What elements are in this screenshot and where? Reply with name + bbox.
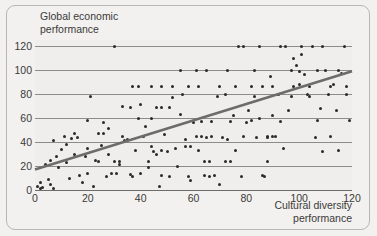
trendline-svg bbox=[35, 40, 352, 190]
y-tick-label: 100 bbox=[2, 65, 32, 76]
y-axis-title: Global economic performance bbox=[40, 10, 118, 36]
x-tick-label: 40 bbox=[121, 193, 161, 204]
y-tick-label: 40 bbox=[2, 137, 32, 148]
y-tick-label: 60 bbox=[2, 113, 32, 124]
x-tick-label: 80 bbox=[226, 193, 266, 204]
y-tick-label: 80 bbox=[2, 89, 32, 100]
chart-figure: 020406080100120 020406080100120 Global e… bbox=[0, 0, 377, 236]
trend-line bbox=[35, 71, 352, 169]
x-axis-line bbox=[35, 190, 352, 191]
y-tick-label: 120 bbox=[2, 41, 32, 52]
x-tick-label: 60 bbox=[174, 193, 214, 204]
x-axis-title: Cultural diversity performance bbox=[274, 199, 352, 225]
x-tick-label: 20 bbox=[68, 193, 108, 204]
y-tick-label: 20 bbox=[2, 161, 32, 172]
scatter-chart: 020406080100120 020406080100120 Global e… bbox=[0, 0, 377, 236]
x-tick-label: 0 bbox=[15, 193, 55, 204]
plot-panel bbox=[35, 40, 352, 190]
